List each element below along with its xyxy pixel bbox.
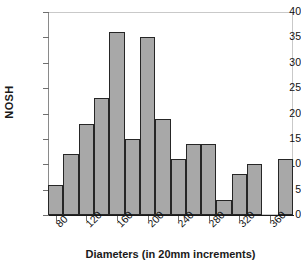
bar xyxy=(109,32,124,215)
bar xyxy=(232,174,247,215)
bar xyxy=(125,139,140,215)
bar xyxy=(79,124,94,215)
bar xyxy=(201,144,216,215)
histogram-chart: NOSH 0510152025303540 801201602002402803… xyxy=(0,0,301,268)
bar xyxy=(247,164,262,215)
bar xyxy=(186,144,201,215)
bar-series xyxy=(48,12,293,215)
bar xyxy=(63,154,78,215)
bar xyxy=(140,37,155,215)
y-tick xyxy=(43,215,49,216)
bar xyxy=(48,185,63,215)
bar xyxy=(155,119,170,215)
bar xyxy=(278,159,293,215)
bar xyxy=(94,98,109,215)
x-axis-title: Diameters (in 20mm increments) xyxy=(48,248,293,260)
y-axis-title: NOSH xyxy=(3,72,15,132)
bar xyxy=(171,159,186,215)
